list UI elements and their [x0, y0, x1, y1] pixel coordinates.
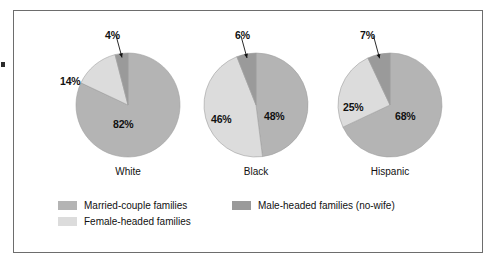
legend-label-married-couple: Married-couple families: [84, 200, 187, 211]
legend-item-married-couple: Married-couple families: [58, 200, 187, 211]
callout-value-white-male-headed: 4%: [105, 29, 120, 41]
slice-value-white-female-headed: 14%: [60, 75, 80, 87]
slice-value-black-female-headed: 46%: [211, 113, 231, 125]
legend-item-male-headed: Male-headed families (no-wife): [232, 200, 395, 211]
legend-swatch-married-couple: [58, 201, 77, 210]
pie-group-label-hispanic: Hispanic: [360, 166, 420, 177]
callout-value-hispanic-male-headed: 7%: [360, 29, 375, 41]
callout-value-black-male-headed: 6%: [235, 29, 250, 41]
pie-slices-layer: [76, 53, 442, 157]
legend-swatch-male-headed: [232, 201, 251, 210]
slice-value-hispanic-female-headed: 25%: [343, 101, 363, 113]
legend-swatch-female-headed: [58, 217, 77, 226]
legend-label-male-headed: Male-headed families (no-wife): [258, 200, 395, 211]
chart-figure: 82% 14% 4% White 48% 46% 6% Black 68% 25…: [0, 0, 499, 268]
legend-label-female-headed: Female-headed families: [84, 216, 191, 227]
pie-slice-black-0: [256, 53, 308, 157]
pie-group-label-white: White: [98, 166, 158, 177]
slice-value-hispanic-married: 68%: [395, 110, 415, 122]
legend-item-female-headed: Female-headed families: [58, 216, 191, 227]
slice-value-black-married: 48%: [264, 110, 284, 122]
pie-group-label-black: Black: [226, 166, 286, 177]
slice-value-white-married: 82%: [113, 118, 133, 130]
